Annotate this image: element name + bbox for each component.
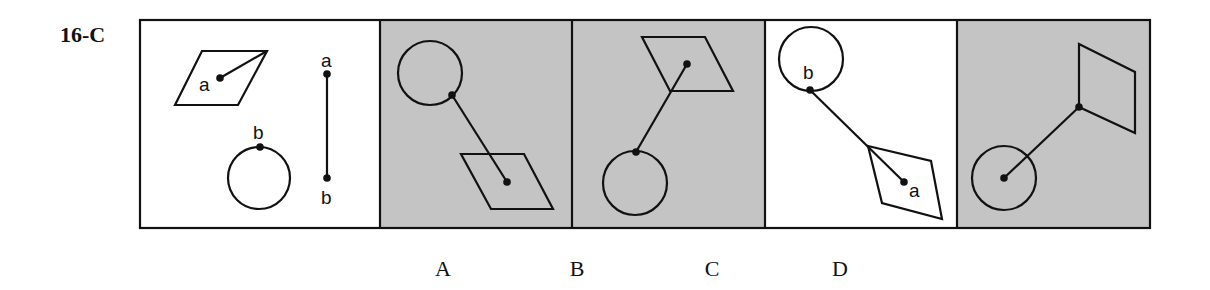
diagram-figure: a b a b b a — [0, 0, 1210, 290]
choice-d-label: D — [820, 256, 860, 282]
choice-c-point-b-label: b — [803, 62, 814, 83]
choice-b-label: B — [557, 256, 597, 282]
segment-a-label: a — [321, 50, 332, 71]
choice-c-point-a-label: a — [909, 180, 920, 201]
choice-b-panel[interactable] — [572, 20, 765, 228]
choice-a-label: A — [423, 256, 463, 282]
choice-d-panel[interactable] — [957, 20, 1150, 228]
segment-b-label: b — [321, 187, 332, 208]
stem-point-a-label: a — [199, 74, 210, 95]
stem-point-b-label: b — [253, 122, 264, 143]
choice-c-label: C — [692, 256, 732, 282]
choice-a-panel[interactable] — [380, 20, 572, 228]
choice-c-panel[interactable] — [765, 20, 957, 228]
